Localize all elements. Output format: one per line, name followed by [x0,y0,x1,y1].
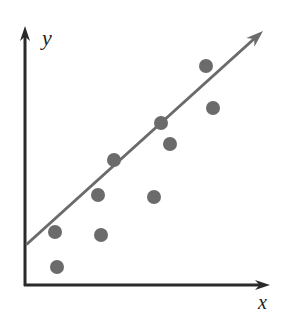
y-axis-label: y [40,25,52,50]
plot-canvas: y x [0,0,291,317]
data-point [48,225,62,239]
data-point [154,116,168,130]
data-point [107,153,121,167]
data-point [91,188,105,202]
data-point [163,137,177,151]
data-point [199,59,213,73]
x-axis-label: x [257,291,267,313]
data-point [94,228,108,242]
data-point [206,101,220,115]
trend-line [27,38,255,244]
scatter-plot-figure: y x [0,0,291,317]
data-point [50,260,64,274]
data-point [147,190,161,204]
